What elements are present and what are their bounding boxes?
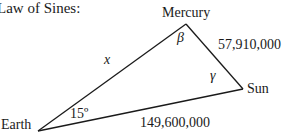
vertex-label-mercury: Mercury [162, 6, 210, 20]
diagram-heading: Law of Sines: [0, 1, 80, 16]
vertex-label-earth: Earth [1, 118, 31, 132]
side-label-x: x [104, 53, 110, 67]
angle-label-earth: 15º [70, 107, 88, 121]
side-label-mercury-sun: 57,910,000 [218, 38, 281, 52]
angle-label-beta: β [177, 31, 184, 45]
side-label-earth-sun: 149,600,000 [140, 116, 210, 130]
angle-label-gamma: γ [210, 69, 216, 83]
vertex-label-sun: Sun [247, 82, 269, 96]
